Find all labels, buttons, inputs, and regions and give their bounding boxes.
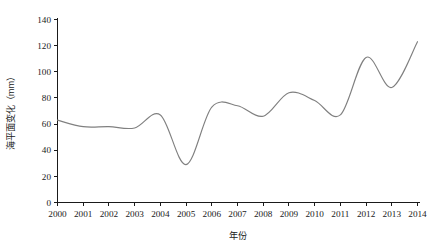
x-tick-label: 2006	[203, 209, 222, 219]
x-tick-label: 2004	[151, 209, 170, 219]
y-tick-label: 40	[42, 145, 52, 155]
x-tick-label: 2013	[383, 209, 402, 219]
x-tick-label: 2002	[100, 209, 119, 219]
y-tick-label: 100	[37, 67, 51, 77]
x-tick-label: 2011	[331, 209, 349, 219]
x-tick-label: 2005	[177, 209, 196, 219]
y-tick-label: 60	[42, 119, 52, 129]
x-tick-label: 2007	[228, 209, 247, 219]
y-tick-label: 20	[42, 172, 52, 182]
x-tick-label: 2012	[357, 209, 376, 219]
x-tick-label: 2014	[408, 209, 427, 219]
x-tick-label: 2003	[125, 209, 144, 219]
y-axis-title: 海平面变化（mm）	[5, 72, 16, 150]
x-tick-label: 2000	[48, 209, 67, 219]
x-tick-label: 2010	[305, 209, 324, 219]
y-tick-label: 120	[37, 41, 51, 51]
x-tick-label: 2009	[280, 209, 299, 219]
x-tick-label: 2001	[74, 209, 93, 219]
y-tick-label: 0	[46, 198, 51, 208]
sea-level-change-line-chart: 020406080100120140 200020012002200320042…	[0, 0, 431, 248]
x-axis-title: 年份	[229, 230, 247, 241]
chart-container: 020406080100120140 200020012002200320042…	[0, 0, 431, 248]
x-tick-label: 2008	[254, 209, 273, 219]
y-tick-label: 140	[37, 15, 51, 25]
y-tick-label: 80	[42, 93, 52, 103]
